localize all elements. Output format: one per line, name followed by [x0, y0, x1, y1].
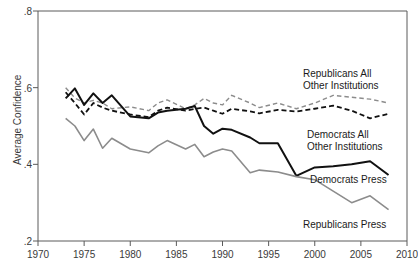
x-tick-label-2005: 2005	[350, 249, 372, 260]
x-tick-label-1975: 1975	[73, 249, 95, 260]
annotation-line: Republicans Press	[303, 219, 386, 231]
y-tick-label-pt4: .4	[18, 159, 32, 170]
y-axis-tick-marks	[33, 11, 38, 241]
annotation-democrats-press: Democrats Press	[310, 174, 387, 186]
annotation-republicans-all-other: Republicans AllOther Institutions	[303, 68, 379, 92]
x-tick-label-1980: 1980	[119, 249, 141, 260]
x-tick-label-2000: 2000	[304, 249, 326, 260]
y-tick-label-pt8: .8	[18, 6, 32, 17]
x-tick-label-1990: 1990	[211, 249, 233, 260]
x-tick-label-2010: 2010	[396, 249, 418, 260]
annotation-line: Other Institutions	[303, 80, 379, 92]
y-tick-label-pt2: .2	[18, 236, 32, 247]
annotation-line: Democrats All	[307, 129, 383, 141]
annotation-line: Other Institutions	[307, 141, 383, 153]
annotation-line: Democrats Press	[310, 174, 387, 186]
annotation-republicans-press: Republicans Press	[303, 219, 386, 231]
axis-frame	[38, 11, 407, 241]
y-tick-label-pt6: .6	[18, 82, 32, 93]
x-tick-label-1995: 1995	[258, 249, 280, 260]
x-axis-tick-marks	[38, 241, 407, 246]
annotation-line: Republicans All	[303, 68, 379, 80]
x-tick-label-1970: 1970	[27, 249, 49, 260]
x-tick-label-1985: 1985	[165, 249, 187, 260]
annotation-democrats-all-other: Democrats AllOther Institutions	[307, 129, 383, 153]
